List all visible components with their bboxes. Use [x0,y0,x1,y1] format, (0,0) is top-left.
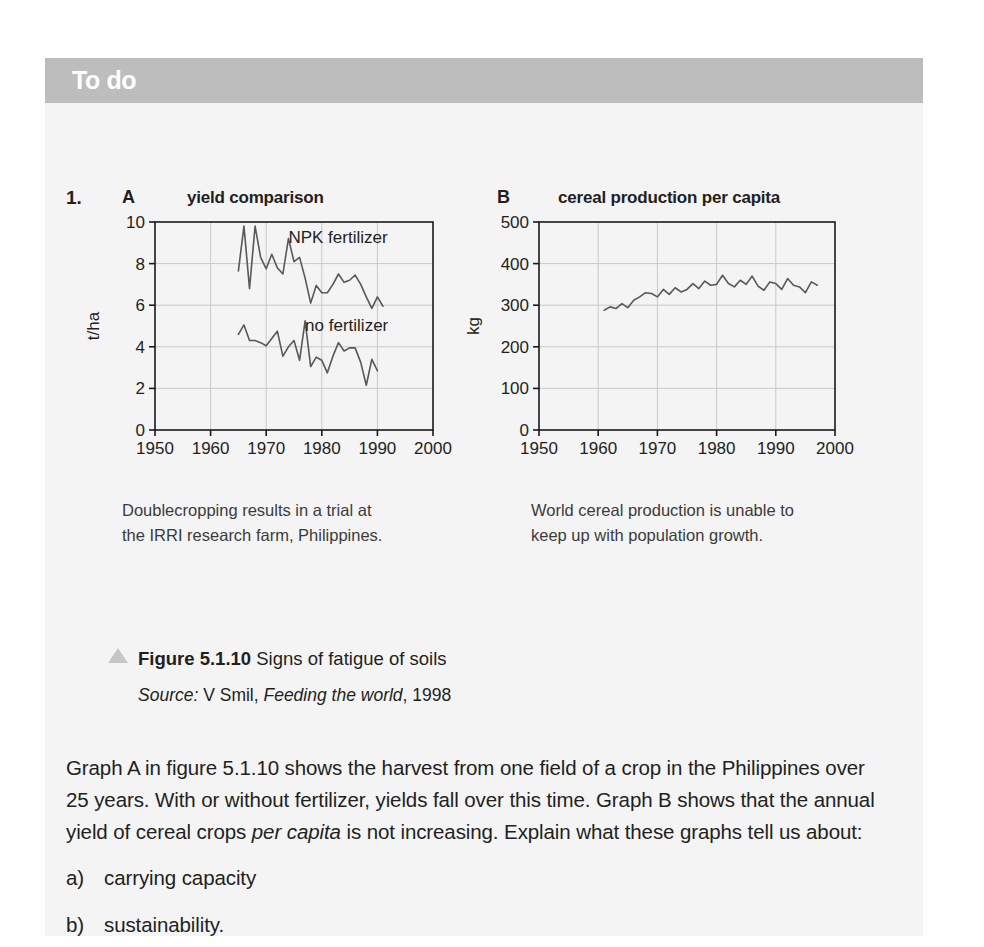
chart-b-caption: World cereal production is unable to kee… [531,498,794,548]
svg-text:1960: 1960 [192,439,230,458]
svg-text:no fertilizer: no fertilizer [305,316,388,335]
chart-b-plot: 0100200300400500195019601970198019902000… [441,208,861,472]
svg-text:6: 6 [136,296,145,315]
question-item-a-label: a) [66,866,88,890]
svg-text:400: 400 [501,255,529,274]
question-item-b: b) sustainability. [66,913,224,937]
question-number: 1. [66,187,82,209]
svg-text:10: 10 [126,213,145,232]
svg-text:100: 100 [501,379,529,398]
svg-text:0: 0 [136,421,145,440]
svg-text:1970: 1970 [247,439,285,458]
source-year: , 1998 [403,685,452,705]
figure-source-line: Source: V Smil, Feeding the world, 1998 [138,685,451,706]
svg-text:1990: 1990 [358,439,396,458]
paragraph-part2: is not increasing. Explain what these gr… [341,820,863,843]
svg-text:4: 4 [136,338,145,357]
question-item-b-text: sustainability. [104,913,224,937]
svg-text:1950: 1950 [136,439,174,458]
svg-text:2000: 2000 [816,439,854,458]
svg-text:1980: 1980 [303,439,341,458]
chart-a-panel-letter: A [122,187,135,208]
svg-text:t/ha: t/ha [84,311,103,340]
question-item-a: a) carrying capacity [66,866,256,890]
chart-b-caption-line2: keep up with population growth. [531,523,794,548]
source-label: Source: [138,685,198,705]
source-author: V Smil, [198,685,263,705]
figure-caption-rest: Signs of fatigue of soils [251,648,446,669]
chart-b-title: cereal production per capita [558,188,780,208]
svg-text:300: 300 [501,296,529,315]
svg-text:1960: 1960 [579,439,617,458]
question-paragraph: Graph A in figure 5.1.10 shows the harve… [66,752,884,848]
chart-a-title: yield comparison [187,188,324,208]
svg-text:1970: 1970 [638,439,676,458]
svg-text:kg: kg [464,317,483,335]
chart-b-caption-line1: World cereal production is unable to [531,498,794,523]
figure-caption: Figure 5.1.10 Signs of fatigue of soils [108,648,447,670]
todo-header: To do [45,58,923,103]
paragraph-italic: per capita [252,820,341,843]
svg-text:500: 500 [501,213,529,232]
svg-text:8: 8 [136,255,145,274]
figure-caption-bold: Figure 5.1.10 [138,648,251,669]
figure-caption-text: Figure 5.1.10 Signs of fatigue of soils [138,648,447,670]
todo-header-title: To do [72,66,136,95]
chart-b-panel-letter: B [497,187,510,208]
todo-panel: To do 1. A yield comparison 024681019501… [45,58,923,936]
svg-text:1950: 1950 [520,439,558,458]
chart-a-caption: Doublecropping results in a trial at the… [122,498,382,548]
svg-text:200: 200 [501,338,529,357]
chart-b-svg: 0100200300400500195019601970198019902000… [441,208,861,468]
svg-text:0: 0 [520,421,529,440]
svg-text:1980: 1980 [698,439,736,458]
svg-text:2: 2 [136,379,145,398]
chart-a-caption-line2: the IRRI research farm, Philippines. [122,523,382,548]
question-item-a-text: carrying capacity [104,866,256,890]
triangle-up-icon [108,648,128,663]
chart-a-caption-line1: Doublecropping results in a trial at [122,498,382,523]
source-title: Feeding the world [263,685,402,705]
question-item-b-label: b) [66,913,88,937]
svg-text:NPK fertilizer: NPK fertilizer [288,228,388,247]
chart-a-svg: 0246810195019601970198019902000NPK ferti… [65,208,465,468]
svg-text:1990: 1990 [757,439,795,458]
chart-a-plot: 0246810195019601970198019902000NPK ferti… [65,208,465,472]
